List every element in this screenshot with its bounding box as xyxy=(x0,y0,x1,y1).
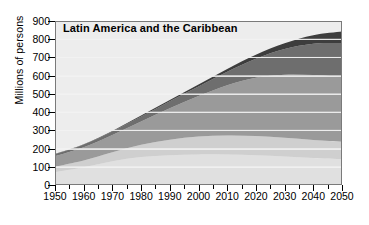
y-tick-label: 200 xyxy=(17,144,50,155)
x-tick-label: 2050 xyxy=(327,191,357,202)
x-tick-mark xyxy=(285,185,286,191)
x-tick-mark xyxy=(199,185,200,191)
x-tick-label: 2000 xyxy=(184,191,214,202)
chart-figure: Millions of persons 01002003004005006007… xyxy=(0,0,369,225)
y-tick-mark xyxy=(48,130,55,131)
x-tick-mark-minor xyxy=(299,185,300,189)
x-tick-mark-minor xyxy=(127,185,128,189)
y-tick-label: 500 xyxy=(17,89,50,100)
y-tick-label: 300 xyxy=(17,125,50,136)
y-tick-mark xyxy=(48,21,55,22)
x-tick-label: 1960 xyxy=(69,191,99,202)
x-tick-label: 1950 xyxy=(40,191,70,202)
x-tick-mark-minor xyxy=(270,185,271,189)
y-tick-mark xyxy=(48,76,55,77)
x-tick-mark xyxy=(313,185,314,191)
chart-title: Latin America and the Caribbean xyxy=(63,22,237,34)
y-tick-label: 100 xyxy=(17,162,50,173)
x-tick-label: 2040 xyxy=(298,191,328,202)
y-tick-label: 400 xyxy=(17,107,50,118)
gridline xyxy=(55,149,342,150)
x-tick-mark xyxy=(170,185,171,191)
x-tick-mark-minor xyxy=(213,185,214,189)
x-tick-mark-minor xyxy=(328,185,329,189)
plot-area xyxy=(55,21,342,185)
x-tick-label: 2010 xyxy=(212,191,242,202)
y-tick-mark xyxy=(48,149,55,150)
x-tick-mark-minor xyxy=(98,185,99,189)
gridline xyxy=(55,39,342,40)
y-tick-mark xyxy=(48,94,55,95)
x-tick-mark-minor xyxy=(184,185,185,189)
gridline xyxy=(55,112,342,113)
x-tick-label: 1970 xyxy=(97,191,127,202)
gridline xyxy=(55,94,342,95)
gridline xyxy=(55,167,342,168)
y-tick-mark xyxy=(48,39,55,40)
x-tick-mark xyxy=(84,185,85,191)
x-axis-ticks: 1950196019701980199020002010202020302040… xyxy=(0,191,369,211)
x-tick-mark xyxy=(227,185,228,191)
y-tick-mark xyxy=(48,185,55,186)
stacked-area-series xyxy=(55,21,342,185)
x-tick-mark-minor xyxy=(69,185,70,189)
x-tick-label: 2020 xyxy=(241,191,271,202)
x-tick-mark xyxy=(256,185,257,191)
gridline xyxy=(55,57,342,58)
x-tick-label: 2030 xyxy=(270,191,300,202)
x-tick-mark xyxy=(55,185,56,191)
y-tick-label: 800 xyxy=(17,34,50,45)
y-tick-label: 900 xyxy=(17,16,50,27)
y-tick-label: 600 xyxy=(17,71,50,82)
x-tick-mark xyxy=(141,185,142,191)
y-tick-label: 0 xyxy=(17,180,50,191)
x-tick-label: 1980 xyxy=(126,191,156,202)
gridline xyxy=(55,130,342,131)
y-tick-mark xyxy=(48,167,55,168)
gridline xyxy=(55,76,342,77)
x-tick-mark xyxy=(342,185,343,191)
x-tick-mark-minor xyxy=(242,185,243,189)
y-tick-mark xyxy=(48,57,55,58)
x-tick-label: 1990 xyxy=(155,191,185,202)
x-tick-mark xyxy=(112,185,113,191)
y-tick-label: 700 xyxy=(17,52,50,63)
y-tick-mark xyxy=(48,112,55,113)
x-tick-mark-minor xyxy=(155,185,156,189)
y-axis-ticks: 0100200300400500600700800900 xyxy=(17,14,50,192)
